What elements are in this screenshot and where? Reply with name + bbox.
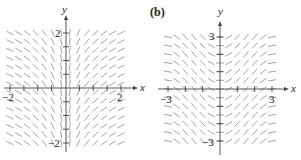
slope-segment (101, 39, 107, 43)
slope-segment (252, 43, 257, 48)
slope-segment (208, 70, 214, 74)
slope-segment (208, 53, 214, 57)
slope-segment (77, 106, 80, 112)
slope-segment (15, 133, 21, 137)
slope-segment (109, 141, 115, 145)
slope-segment (7, 82, 13, 85)
slope-segment (33, 64, 38, 69)
slope-segment (260, 113, 266, 117)
slope-segment (24, 39, 30, 43)
slope-segment (77, 64, 80, 70)
slope-segment (33, 107, 38, 112)
slope-segment (244, 52, 249, 58)
slope-segment (24, 48, 30, 52)
slope-segment (61, 29, 62, 36)
slope-segment (101, 99, 107, 103)
slope-segment (42, 106, 46, 112)
slope-segment (164, 54, 171, 55)
slope-segment (226, 70, 232, 74)
slope-segment (164, 132, 171, 133)
slope-segment (235, 95, 240, 100)
slope-segment (174, 52, 180, 56)
slope-segment (268, 36, 275, 37)
slope-segment (109, 133, 115, 137)
slope-segment (7, 141, 13, 144)
slope-segment (183, 112, 188, 117)
slope-segment (24, 99, 30, 103)
slope-segment (226, 79, 232, 83)
slope-segment (260, 44, 266, 48)
slope-segment (15, 90, 21, 94)
slope-segment (235, 52, 240, 57)
slope-segment (42, 73, 46, 79)
slope-segment (260, 52, 266, 56)
slope-segment (85, 30, 89, 36)
slope-segment (260, 122, 266, 126)
x-tick-label-min-a: −2 (2, 91, 14, 103)
slope-segment (101, 132, 107, 136)
slope-segment (183, 60, 188, 65)
slope-segment (244, 43, 249, 49)
slope-segment (183, 95, 188, 100)
slope-segment (226, 53, 232, 57)
slope-segment (183, 104, 188, 109)
slope-segment (174, 61, 180, 65)
slope-segment (51, 55, 54, 61)
slope-segment (252, 138, 257, 143)
slope-segment (192, 138, 197, 144)
slope-segment (77, 97, 80, 103)
slope-segment (93, 56, 98, 61)
slope-segment (24, 107, 30, 111)
slope-segment (252, 112, 257, 117)
slope-segment (118, 133, 124, 136)
slope-segment (252, 60, 257, 65)
slope-segment (51, 72, 54, 78)
x-axis-arrow-a (133, 86, 138, 90)
slope-segment (93, 107, 98, 112)
slope-segment (235, 104, 240, 109)
slope-segment (268, 106, 275, 107)
slope-segment (51, 123, 54, 129)
slope-segment (51, 38, 54, 44)
slope-segment (101, 31, 107, 35)
slope-segment (24, 73, 30, 77)
slope-segment (109, 74, 115, 78)
slope-segment (174, 96, 180, 100)
slope-segment (183, 78, 188, 83)
slope-segment (33, 124, 38, 129)
slope-segment (61, 38, 62, 45)
slope-segment (252, 121, 257, 126)
slope-segment (61, 80, 62, 87)
panel-label-b: (b) (150, 5, 165, 19)
y-tick-label-max-b: 3 (209, 30, 215, 42)
slope-segment (164, 62, 171, 63)
slope-segment (69, 89, 70, 96)
slope-segment (183, 130, 188, 135)
slope-segment (200, 34, 205, 39)
slope-segment (174, 78, 180, 82)
slope-segment (268, 123, 275, 124)
slope-segment (208, 131, 214, 135)
slope-segment (61, 63, 62, 70)
slope-segment (268, 54, 275, 55)
slope-segment (61, 89, 62, 96)
slope-segment (252, 130, 257, 135)
slope-segment (24, 82, 30, 86)
slope-segment (15, 116, 21, 120)
slope-field-figure: x y −2 2 2 −2 (b) x y −3 3 3 −3 (0, 0, 301, 160)
slope-segment (101, 116, 107, 120)
slope-segment (164, 114, 171, 115)
slope-segment (109, 99, 115, 103)
slope-segment (101, 124, 107, 128)
slope-segment (118, 65, 124, 68)
slope-segment (235, 112, 240, 117)
slope-segment (235, 34, 240, 39)
slope-segment (33, 31, 38, 36)
slope-segment (109, 116, 115, 120)
slope-segment (42, 30, 46, 36)
slope-segment (77, 140, 80, 146)
slope-segment (93, 141, 98, 146)
slope-segment (174, 104, 180, 108)
slope-segment (226, 35, 232, 39)
slope-segment (164, 106, 171, 107)
